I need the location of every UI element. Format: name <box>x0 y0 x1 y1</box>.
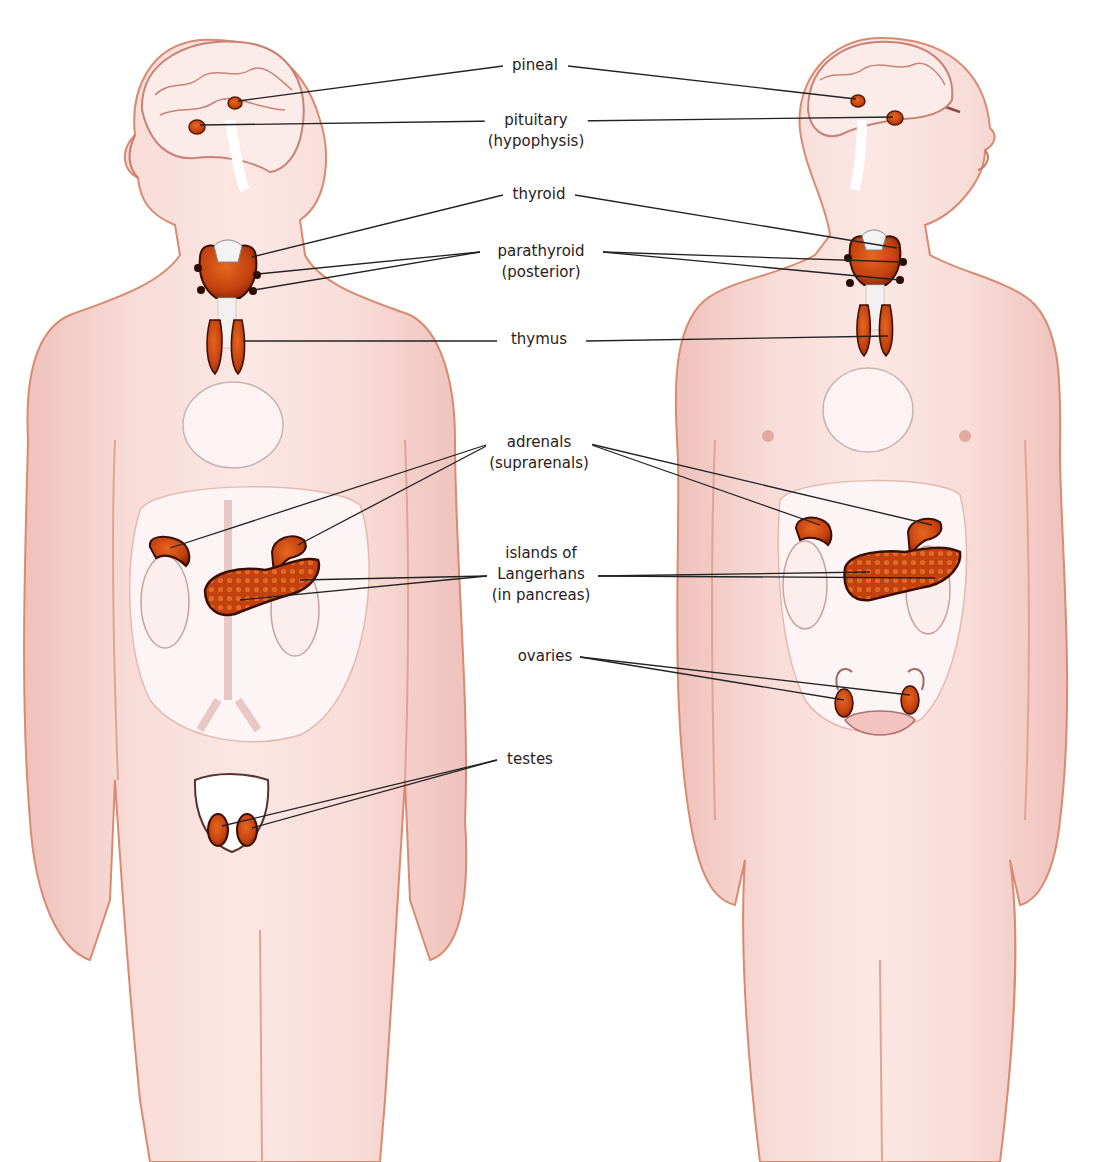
female-pineal-gland <box>851 95 865 107</box>
label-text: thymus <box>511 329 567 350</box>
label-subtext: (posterior) <box>497 262 584 283</box>
female-heart-outline <box>823 368 913 452</box>
male-testis <box>208 814 228 846</box>
female-pituitary-gland <box>887 111 903 125</box>
female-parathyroid <box>846 279 854 287</box>
female-ovary <box>901 686 919 714</box>
label-pituitary: pituitary (hypophysis) <box>485 110 588 152</box>
label-islands-of-langerhans: islands of Langerhans (in pancreas) <box>489 543 594 606</box>
label-ovaries: ovaries <box>515 646 576 667</box>
label-subtext: (in pancreas) <box>492 585 591 606</box>
label-adrenals: adrenals (suprarenals) <box>486 432 592 474</box>
label-thyroid: thyroid <box>510 184 569 205</box>
female-figure <box>676 38 1067 1162</box>
label-text: ovaries <box>518 646 573 667</box>
label-text: adrenals <box>489 432 589 453</box>
male-pituitary-gland <box>189 120 205 134</box>
label-text: pineal <box>512 55 558 76</box>
male-heart-outline <box>183 382 283 468</box>
label-text: parathyroid <box>497 241 584 262</box>
male-figure <box>24 40 466 1162</box>
label-thymus: thymus <box>508 329 570 350</box>
label-text: testes <box>507 749 553 770</box>
label-text: Langerhans <box>492 564 591 585</box>
label-parathyroid: parathyroid (posterior) <box>494 241 587 283</box>
label-subtext: (hypophysis) <box>488 131 585 152</box>
male-pineal-gland <box>228 97 242 109</box>
female-thymus-gland <box>879 305 892 356</box>
label-testes: testes <box>504 749 556 770</box>
male-thymus-gland <box>231 320 244 374</box>
female-thymus-gland <box>857 305 870 356</box>
female-ovary <box>835 689 853 717</box>
label-text: pituitary <box>488 110 585 131</box>
label-text: thyroid <box>513 184 566 205</box>
male-parathyroid <box>253 271 261 279</box>
label-text: islands of <box>492 543 591 564</box>
label-pineal: pineal <box>509 55 561 76</box>
male-parathyroid <box>194 264 202 272</box>
male-parathyroid <box>249 287 257 295</box>
male-parathyroid <box>197 286 205 294</box>
label-subtext: (suprarenals) <box>489 453 589 474</box>
